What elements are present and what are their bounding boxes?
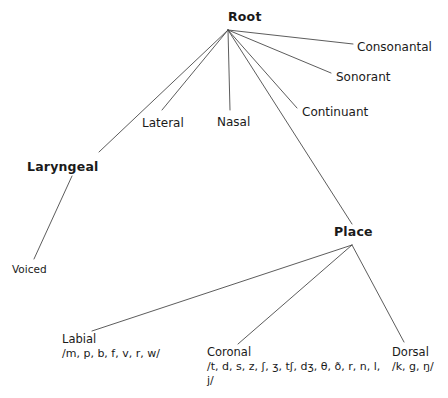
node-lateral: Lateral <box>142 116 184 130</box>
node-voiced: Voiced <box>12 263 47 275</box>
laryngeal-to-voiced <box>34 176 72 259</box>
root-to-sonorant <box>228 30 331 73</box>
node-coronal-group: Coronal /t, d, s, z, ʃ, ʒ, tʃ, dʒ, θ, ð,… <box>207 346 382 388</box>
root-to-nasal <box>228 30 230 110</box>
root-to-consonantal <box>228 30 353 44</box>
node-continuant: Continuant <box>302 105 368 119</box>
root-to-lateral <box>162 30 228 110</box>
root-to-laryngeal <box>99 30 228 152</box>
node-labial-label: Labial <box>62 333 160 347</box>
node-dorsal-group: Dorsal /k, g, ŋ/ <box>392 346 434 374</box>
place-to-coronal <box>238 245 352 344</box>
place-to-dorsal <box>352 245 404 342</box>
root-to-continuant <box>228 30 297 108</box>
node-consonantal: Consonantal <box>357 40 432 54</box>
labial-segment-list: /m, p, b, f, v, r, w/ <box>62 347 160 361</box>
node-place: Place <box>334 225 373 240</box>
feature-geometry-diagram: Root Consonantal Sonorant Continuant Nas… <box>0 0 448 398</box>
node-labial-group: Labial /m, p, b, f, v, r, w/ <box>62 333 160 361</box>
place-to-labial <box>92 245 352 331</box>
node-nasal: Nasal <box>217 115 250 129</box>
node-root: Root <box>228 10 262 25</box>
coronal-segment-list: /t, d, s, z, ʃ, ʒ, tʃ, dʒ, θ, ð, r, n, l… <box>207 360 382 389</box>
node-sonorant: Sonorant <box>336 70 391 84</box>
node-dorsal-label: Dorsal <box>392 346 434 360</box>
node-coronal-label: Coronal <box>207 346 382 360</box>
node-laryngeal: Laryngeal <box>27 160 99 175</box>
dorsal-segment-list: /k, g, ŋ/ <box>392 360 434 374</box>
